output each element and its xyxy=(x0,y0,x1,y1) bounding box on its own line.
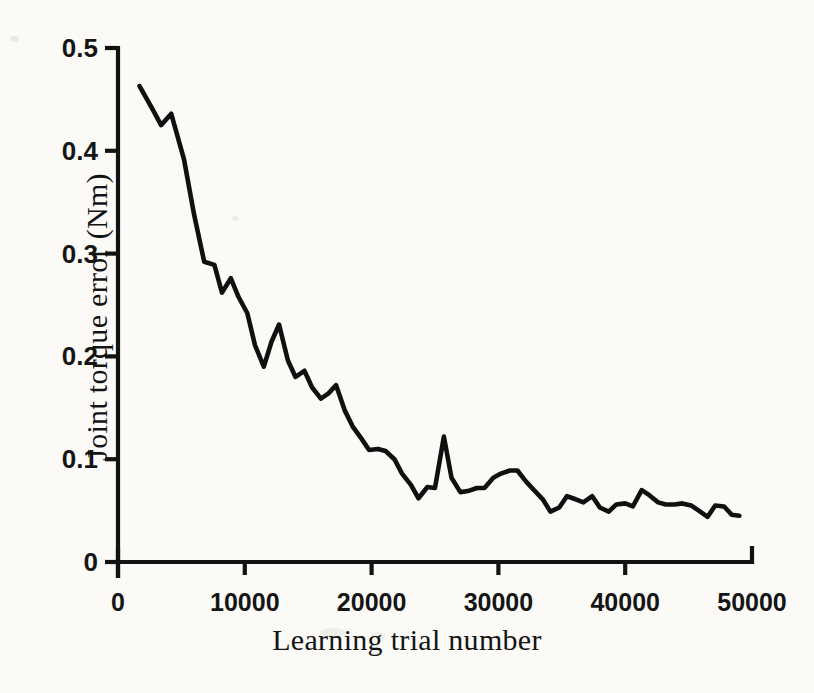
y-tick-label: 0.5 xyxy=(20,33,98,64)
y-tick-label: 0 xyxy=(20,547,98,578)
x-tick-label: 40000 xyxy=(590,588,660,617)
y-axis-title: Joint torque error (Nm) xyxy=(80,102,114,532)
x-axis-title: Learning trial number xyxy=(0,623,814,657)
x-tick-label: 20000 xyxy=(337,588,407,617)
figure-container: 00.10.20.30.40.5 01000020000300004000050… xyxy=(0,0,814,693)
x-tick-label: 50000 xyxy=(717,588,787,617)
x-tick-label: 0 xyxy=(111,588,125,617)
x-tick-label: 10000 xyxy=(210,588,280,617)
x-tick-label: 30000 xyxy=(464,588,534,617)
data-series-line xyxy=(140,86,740,517)
